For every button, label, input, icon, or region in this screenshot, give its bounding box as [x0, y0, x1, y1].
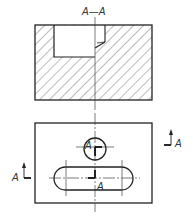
hole-label: A	[84, 140, 92, 151]
plan-outline	[35, 123, 152, 203]
plan-view: A A A A	[11, 113, 182, 212]
section-view	[35, 17, 152, 110]
cut-indicator-left: A	[11, 162, 31, 183]
cut-indicator-right: A	[164, 129, 182, 149]
arrow-up-icon	[22, 162, 26, 168]
technical-drawing: A—A A A	[0, 0, 193, 222]
cut-right-label: A	[174, 138, 182, 149]
arrow-up-icon	[169, 129, 173, 135]
cut-left-label: A	[11, 172, 19, 183]
section-title: A—A	[81, 6, 106, 17]
slot-label: A	[96, 181, 104, 192]
